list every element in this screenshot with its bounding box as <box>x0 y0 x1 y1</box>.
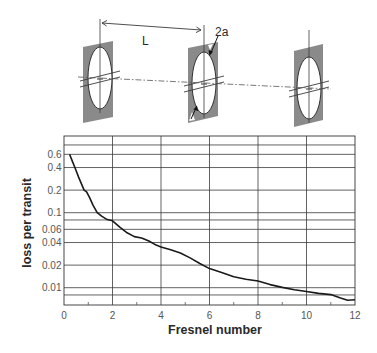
mirror-plate <box>80 19 120 123</box>
y-tick-label: 0.1 <box>48 207 62 218</box>
x-tick-label: 2 <box>110 310 116 321</box>
mirror-plate <box>184 25 224 123</box>
aperture-label: 2a <box>215 25 229 39</box>
y-tick-label: 0.2 <box>48 185 62 196</box>
loss-chart: 024681012 0.60.40.20.10.060.040.020.01 <box>42 136 361 321</box>
y-tick-label: 0.04 <box>42 237 62 248</box>
x-tick-label: 0 <box>61 310 67 321</box>
mirror-plate <box>289 30 329 127</box>
y-tick-label: 0.4 <box>48 162 62 173</box>
y-axis-title: loss per transit <box>20 177 34 267</box>
distance-label: L <box>142 34 149 48</box>
distance-arrow <box>102 21 201 33</box>
y-axis-ticks: 0.60.40.20.10.060.040.020.01 <box>42 149 62 293</box>
x-tick-label: 8 <box>255 310 261 321</box>
x-tick-label: 10 <box>301 310 313 321</box>
chart-grid <box>64 136 355 305</box>
y-tick-label: 0.01 <box>42 282 62 293</box>
resonator-diagram <box>78 19 331 127</box>
y-tick-label: 0.02 <box>42 260 62 271</box>
x-tick-label: 4 <box>158 310 164 321</box>
x-tick-label: 6 <box>207 310 213 321</box>
y-tick-label: 0.6 <box>48 149 62 160</box>
y-tick-label: 0.06 <box>42 224 62 235</box>
x-tick-label: 12 <box>349 310 361 321</box>
x-axis-title: Fresnel number <box>168 323 262 337</box>
figure: L 2a 024681012 0.60.40.20.10.060.040.020… <box>0 0 377 353</box>
